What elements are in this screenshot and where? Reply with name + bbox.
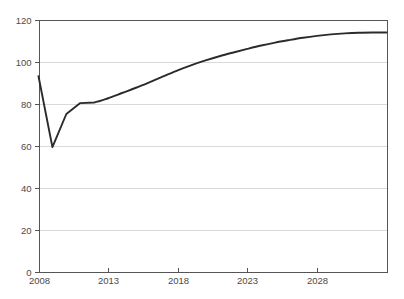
line-chart: 020406080100120 20082013201820232028 — [0, 0, 404, 299]
x-tick-label-2018: 2018 — [168, 275, 189, 286]
y-tick-label-40: 40 — [21, 183, 32, 194]
chart-canvas: 020406080100120 20082013201820232028 — [0, 0, 404, 299]
x-tick-label-2008: 2008 — [29, 275, 50, 286]
y-tick-label-100: 100 — [16, 57, 32, 68]
x-tick-label-2013: 2013 — [98, 275, 119, 286]
y-tick-label-60: 60 — [21, 141, 32, 152]
chart-background — [0, 0, 404, 299]
x-tick-label-2028: 2028 — [307, 275, 328, 286]
y-tick-label-20: 20 — [21, 225, 32, 236]
y-tick-label-80: 80 — [21, 99, 32, 110]
x-tick-label-2023: 2023 — [237, 275, 258, 286]
y-tick-label-120: 120 — [16, 15, 32, 26]
